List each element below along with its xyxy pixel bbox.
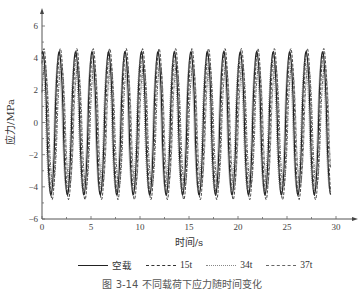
solid-line-swatch-icon <box>78 265 108 266</box>
series-lines <box>42 49 331 200</box>
svg-text:−4: −4 <box>28 182 38 192</box>
figure-caption: 图 3-14 不同载荷下应力随时间变化 <box>0 276 364 291</box>
legend-item-37t: 37t <box>266 260 312 270</box>
svg-text:30: 30 <box>332 222 342 232</box>
x-axis-title: 时间/s <box>175 236 204 248</box>
svg-text:−6: −6 <box>28 214 38 224</box>
svg-text:20: 20 <box>234 222 244 232</box>
svg-text:5: 5 <box>89 222 94 232</box>
legend-label: 15t <box>180 260 192 270</box>
legend-item-empty-load: 空载 <box>78 258 132 272</box>
dashed-line-swatch-icon <box>146 265 176 266</box>
legend-item-34t: 34t <box>206 260 252 270</box>
svg-text:10: 10 <box>136 222 146 232</box>
y-axis-title: 应力/MPa <box>4 99 16 145</box>
svg-text:4: 4 <box>34 53 39 63</box>
legend-label: 34t <box>240 260 252 270</box>
legend-label: 37t <box>300 260 312 270</box>
dotted-line-swatch-icon <box>206 265 236 266</box>
svg-text:0: 0 <box>40 222 45 232</box>
svg-text:6: 6 <box>34 21 39 31</box>
svg-text:−2: −2 <box>28 150 38 160</box>
svg-text:25: 25 <box>283 222 293 232</box>
svg-text:2: 2 <box>34 85 39 95</box>
legend-item-15t: 15t <box>146 260 192 270</box>
dashdot-line-swatch-icon <box>266 265 296 266</box>
svg-text:15: 15 <box>185 222 195 232</box>
svg-text:0: 0 <box>34 118 39 128</box>
legend-label: 空载 <box>112 258 132 272</box>
stress-time-chart: 051015202530−6−4−20246 时间/s 应力/MPa <box>0 0 364 260</box>
legend: 空载 15t 34t 37t <box>78 258 338 272</box>
